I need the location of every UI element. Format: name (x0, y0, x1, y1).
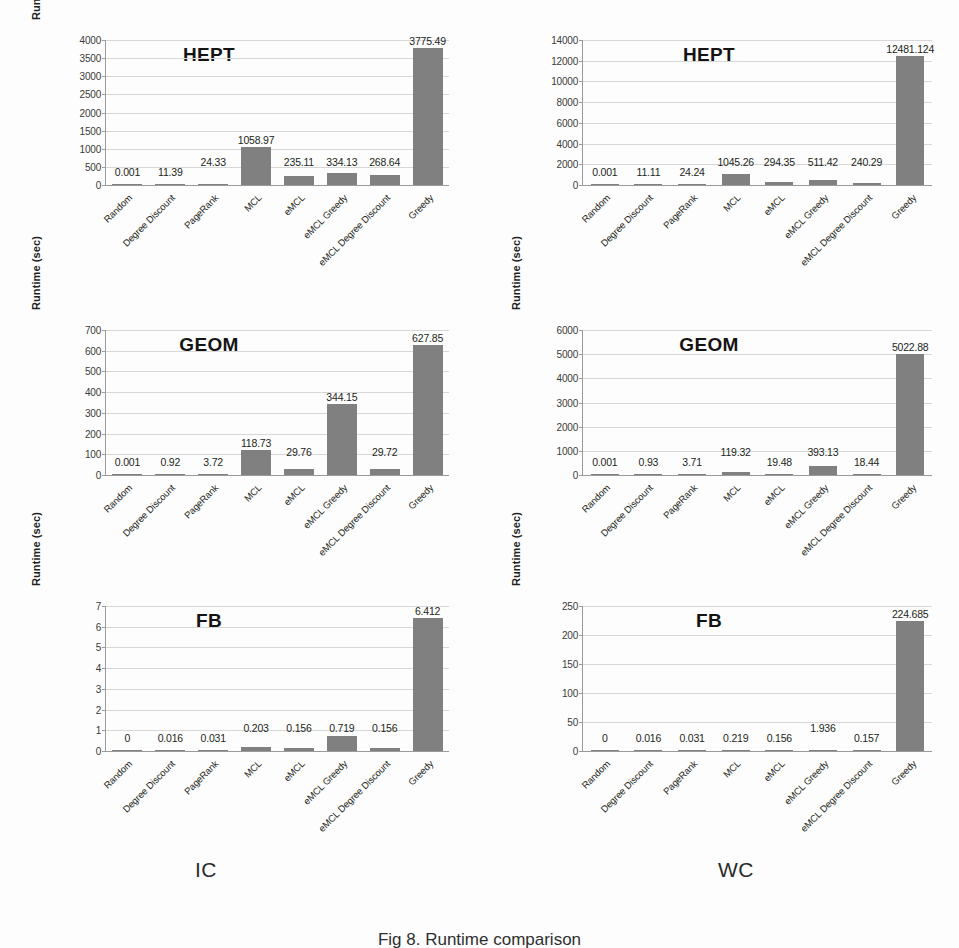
chart-panel-hept-wc: HEPT 020004000600080001000012000140000.0… (484, 22, 954, 302)
bar[interactable]: 0.92 (155, 474, 185, 475)
bar-group: 224.685 (888, 606, 932, 751)
category-label: MCL (721, 192, 743, 214)
bar-group: 627.85 (406, 330, 449, 475)
bar-value-label: 0.219 (723, 732, 748, 744)
bar[interactable]: 0.219 (722, 750, 750, 751)
bar-value-label: 0.031 (201, 732, 226, 744)
bar[interactable]: 11.39 (155, 184, 185, 185)
bar[interactable]: 0 (112, 750, 142, 751)
bar[interactable]: 0.031 (678, 750, 706, 751)
bar[interactable]: 1058.97 (241, 147, 271, 185)
bar[interactable]: 0.93 (634, 474, 662, 475)
y-axis-tick-label: 7 (96, 601, 101, 612)
bar[interactable]: 5022.88 (896, 354, 924, 475)
bar[interactable]: 627.85 (413, 345, 443, 475)
y-axis-title: Runtime (sec) (30, 0, 42, 58)
y-axis-tick-label: 2000 (80, 107, 101, 118)
y-axis-tick-label: 6000 (557, 117, 578, 128)
bar[interactable]: 0.001 (591, 184, 619, 185)
bar[interactable]: 3.71 (678, 474, 706, 475)
category-tick: Degree Discount (148, 188, 191, 288)
bar[interactable]: 0.156 (765, 750, 793, 751)
bar[interactable]: 24.24 (678, 184, 706, 185)
bar[interactable]: 18.44 (853, 474, 881, 475)
bar[interactable]: 0.719 (327, 736, 357, 751)
bar[interactable]: 12481.124 (896, 56, 924, 185)
bar[interactable]: 294.35 (765, 182, 793, 185)
bar[interactable]: 1045.26 (722, 174, 750, 185)
category-label: eMCL (281, 758, 306, 783)
bar-value-label: 0.92 (160, 456, 180, 468)
bar-group: 240.29 (845, 40, 889, 185)
bar[interactable]: 119.32 (722, 472, 750, 475)
y-axis-title: Runtime (sec) (510, 474, 522, 624)
bar[interactable]: 268.64 (370, 175, 400, 185)
bar[interactable]: 511.42 (809, 180, 837, 185)
bar-value-label: 334.13 (326, 156, 357, 168)
category-tick: Greedy (406, 188, 449, 288)
bar-group: 0.157 (845, 606, 889, 751)
category-label: Greedy (406, 758, 435, 787)
y-axis-tick-label: 500 (85, 366, 101, 377)
category-tick: Degree Discount (148, 478, 191, 578)
bar[interactable]: 0.157 (853, 750, 881, 751)
bar[interactable]: 0.016 (634, 750, 662, 751)
bar-group: 268.64 (363, 40, 406, 185)
bar[interactable]: 235.11 (284, 176, 314, 185)
category-axis: RandomDegree DiscountPageRankMCLeMCLeMCL… (582, 478, 932, 578)
bar-value-label: 11.39 (158, 166, 183, 178)
bar[interactable]: 393.13 (809, 466, 837, 476)
bar[interactable]: 1.936 (809, 750, 837, 751)
y-axis-tick-mark (579, 751, 583, 752)
bar[interactable]: 0 (591, 750, 619, 751)
chart-panel-fb-ic: Runtime (sec) FB 0123456700.0160.0310.20… (4, 588, 474, 868)
y-axis-tick-mark (102, 185, 106, 186)
bar[interactable]: 3775.49 (413, 48, 443, 185)
y-axis-title: Runtime (sec) (510, 198, 522, 348)
bar[interactable]: 29.72 (370, 469, 400, 475)
bar-value-label: 0.156 (767, 732, 792, 744)
category-label: Random (102, 758, 135, 791)
category-tick: MCL (234, 754, 277, 854)
y-axis-tick-label: 4 (96, 663, 101, 674)
category-tick: Greedy (888, 754, 932, 854)
bar[interactable]: 24.33 (198, 184, 228, 185)
bar-value-label: 1045.26 (717, 156, 754, 168)
y-axis-tick-label: 0 (573, 180, 578, 191)
bar-value-label: 0.016 (158, 732, 183, 744)
bar[interactable]: 118.73 (241, 450, 271, 475)
bar[interactable]: 0.203 (241, 747, 271, 751)
category-tick: Greedy (888, 188, 932, 288)
category-label: MCL (242, 192, 264, 214)
bar[interactable]: 6.412 (413, 618, 443, 751)
y-axis-tick-label: 5000 (557, 349, 578, 360)
category-label: eMCL (761, 482, 786, 507)
bar[interactable]: 0.001 (112, 184, 142, 185)
bar[interactable]: 3.72 (198, 474, 228, 475)
bar[interactable]: 240.29 (853, 183, 881, 185)
y-axis-tick-label: 4000 (80, 35, 101, 46)
bar[interactable]: 0.016 (155, 750, 185, 751)
y-axis-tick-label: 400 (85, 387, 101, 398)
category-label: Random (579, 482, 612, 515)
category-tick: PageRank (670, 754, 714, 854)
bar[interactable]: 0.156 (284, 748, 314, 751)
bar[interactable]: 344.15 (327, 404, 357, 475)
bar-group: 1.936 (801, 606, 845, 751)
bar[interactable]: 224.685 (896, 621, 924, 751)
bar-group: 0.001 (583, 330, 627, 475)
category-axis: RandomDegree DiscountPageRankMCLeMCLeMCL… (105, 478, 449, 578)
bar-group: 24.24 (670, 40, 714, 185)
bar[interactable]: 0.001 (112, 474, 142, 475)
category-axis: RandomDegree DiscountPageRankMCLeMCLeMCL… (582, 754, 932, 854)
bar[interactable]: 0.031 (198, 750, 228, 751)
category-tick: Degree Discount (626, 188, 670, 288)
y-axis-tick-label: 2000 (557, 159, 578, 170)
bar[interactable]: 0.156 (370, 748, 400, 751)
bar[interactable]: 334.13 (327, 173, 357, 185)
bar[interactable]: 19.48 (765, 474, 793, 475)
bar[interactable]: 29.76 (284, 469, 314, 475)
bar[interactable]: 0.001 (591, 474, 619, 475)
bar[interactable]: 11.11 (634, 184, 662, 185)
bar-value-label: 24.24 (679, 166, 704, 178)
